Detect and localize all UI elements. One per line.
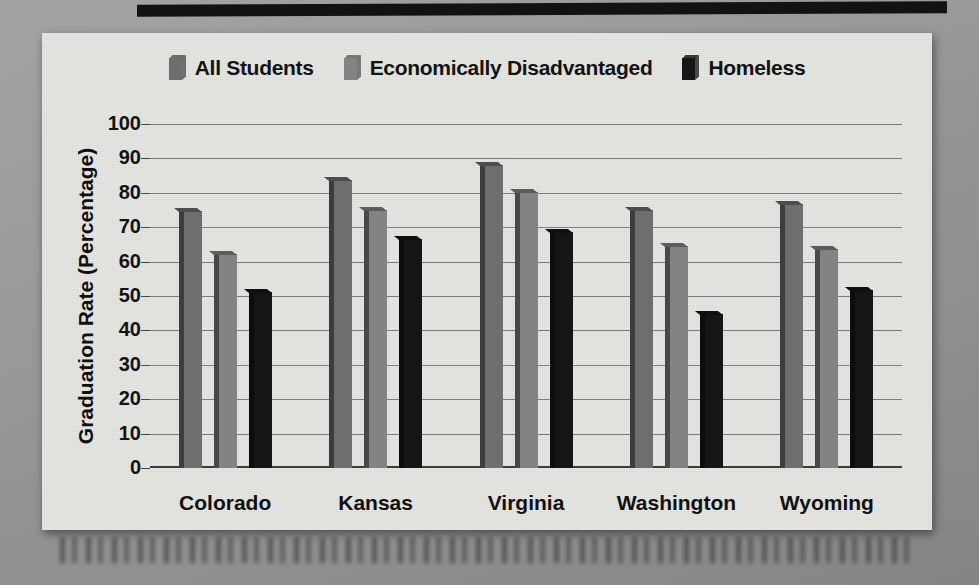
bar	[329, 177, 352, 468]
bar	[179, 208, 202, 468]
bar	[480, 162, 503, 468]
bar	[550, 229, 573, 468]
bar	[214, 251, 237, 468]
legend-item: Economically Disadvantaged	[344, 55, 653, 80]
y-tick-label: 50	[119, 284, 141, 307]
legend-label: Homeless	[708, 56, 805, 80]
y-tick-label: 70	[119, 215, 141, 238]
scan-artifact-smudge	[60, 537, 910, 563]
legend-label: Economically Disadvantaged	[370, 56, 653, 80]
bar-group: Kansas	[300, 124, 450, 468]
bar-group: Wyoming	[752, 124, 902, 468]
bar-groups: ColoradoKansasVirginiaWashingtonWyoming	[150, 124, 902, 468]
bar	[515, 189, 538, 468]
bar	[249, 289, 272, 468]
bar	[850, 287, 873, 468]
y-tick-mark	[141, 468, 150, 469]
bar	[364, 207, 387, 468]
y-tick-label: 40	[119, 318, 141, 341]
y-tick-mark	[141, 227, 150, 228]
x-axis-category-label: Wyoming	[752, 491, 902, 515]
legend-swatch-icon	[682, 55, 699, 80]
bar	[630, 207, 653, 468]
bar-group: Colorado	[150, 124, 300, 468]
y-tick-label: 100	[108, 112, 141, 135]
y-tick-label: 30	[119, 353, 141, 376]
x-axis-category-label: Colorado	[150, 491, 300, 515]
y-tick-mark	[141, 124, 150, 125]
y-axis-title: Graduation Rate (Percentage)	[74, 148, 98, 444]
y-tick-label: 90	[119, 146, 141, 169]
y-tick-mark	[141, 365, 150, 366]
y-tick-mark	[141, 434, 150, 435]
bar	[780, 201, 803, 468]
x-axis-category-label: Washington	[601, 491, 751, 515]
x-axis-category-label: Virginia	[451, 491, 601, 515]
bar-group: Virginia	[451, 124, 601, 468]
y-tick-mark	[141, 262, 150, 263]
y-tick-label: 80	[119, 181, 141, 204]
chart-legend: All StudentsEconomically DisadvantagedHo…	[42, 55, 932, 80]
y-tick-label: 20	[119, 387, 141, 410]
bar	[815, 246, 838, 468]
y-tick-label: 60	[119, 250, 141, 273]
plot-area: Graduation Rate (Percentage) 10090807060…	[150, 124, 902, 468]
x-axis-category-label: Kansas	[300, 491, 450, 515]
y-tick-mark	[141, 158, 150, 159]
legend-swatch-icon	[169, 55, 186, 80]
legend-label: All Students	[195, 56, 314, 80]
y-tick-mark	[141, 296, 150, 297]
legend-item: All Students	[169, 55, 314, 80]
legend-swatch-icon	[344, 55, 361, 80]
bar	[399, 236, 422, 468]
y-tick-label: 0	[130, 456, 141, 479]
bar	[665, 243, 688, 468]
y-tick-mark	[141, 193, 150, 194]
y-tick-label: 10	[119, 422, 141, 445]
y-tick-mark	[141, 330, 150, 331]
bar-group: Washington	[601, 124, 751, 468]
legend-item: Homeless	[682, 55, 805, 80]
bar	[700, 311, 723, 468]
chart-panel: All StudentsEconomically DisadvantagedHo…	[42, 33, 932, 530]
y-tick-mark	[141, 399, 150, 400]
